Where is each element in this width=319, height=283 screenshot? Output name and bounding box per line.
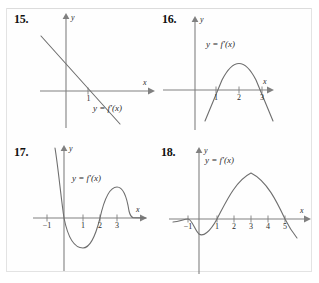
- panel-15-x-axis-letter: x: [143, 79, 147, 87]
- panel-16-tick-label-2: 2: [234, 94, 244, 102]
- panel-18-tick-label-5: 5: [280, 223, 290, 231]
- panel-18-x-axis-arrow: [304, 216, 311, 223]
- panel-18: 18. y x −1 1 2 3 4 5 y = f′(x): [155, 140, 319, 283]
- panel-15-plot: [0, 0, 160, 142]
- panel-16-tick-label-3: 3: [257, 94, 267, 102]
- panel-16-function-label: y = f′(x): [206, 40, 235, 49]
- panel-17-tick-label-minus1: −1: [40, 222, 54, 230]
- panel-17-y-axis-letter: y: [69, 145, 73, 153]
- panel-16-y-axis-letter: y: [200, 16, 204, 24]
- panel-16-tick-label-1: 1: [211, 94, 221, 102]
- panel-15: 15. y x 1 y = f′(x): [0, 0, 160, 142]
- panel-17-tick-label-1: 1: [78, 222, 88, 230]
- panel-18-plot: [155, 140, 319, 283]
- panel-15-x-axis-arrow: [148, 88, 155, 95]
- panel-15-y-axis-letter: y: [71, 14, 75, 22]
- panel-17-tick-label-3: 3: [112, 222, 122, 230]
- panel-16: 16. y x 1 2 3 y = f′(x): [155, 0, 319, 142]
- panel-18-tick-label-2: 2: [229, 223, 239, 231]
- panel-18-tick-label-4: 4: [263, 223, 273, 231]
- figure-page: 15. y x 1 y = f′(x) 16.: [0, 0, 319, 283]
- panel-16-plot: [155, 0, 319, 142]
- panel-17-curve-f-prime: [55, 148, 146, 248]
- panel-18-x-axis-letter: x: [300, 207, 304, 215]
- panel-17-y-axis-arrow: [61, 145, 68, 151]
- panel-18-tick-label-minus1: −1: [181, 223, 195, 231]
- panel-18-y-axis-arrow: [196, 147, 203, 153]
- panel-16-y-axis-arrow: [192, 16, 199, 22]
- panel-15-tick-label-1: 1: [84, 95, 93, 103]
- panel-17: 17. y x −1 1 2 3 y = f′(x): [0, 140, 160, 283]
- panel-18-y-axis-letter: y: [204, 147, 208, 155]
- panel-16-x-axis-arrow: [267, 87, 274, 94]
- panel-16-x-axis-letter: x: [263, 78, 267, 86]
- panel-17-function-label: y = f′(x): [72, 174, 101, 183]
- panel-18-function-label: y = f′(x): [205, 156, 234, 165]
- panel-17-x-axis-letter: x: [136, 206, 140, 214]
- panel-17-tick-label-2: 2: [95, 222, 105, 230]
- panel-18-tick-label-3: 3: [246, 223, 256, 231]
- panel-18-tick-label-1: 1: [212, 223, 222, 231]
- panel-15-y-axis-arrow: [63, 13, 70, 19]
- panel-15-function-label: y = f′(x): [93, 104, 122, 113]
